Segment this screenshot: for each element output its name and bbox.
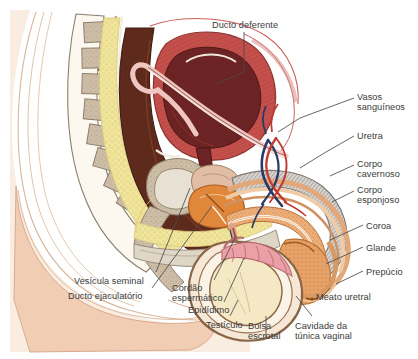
label-epididimo: Epidídimo [188,305,229,315]
label-vesicula-seminal: Vesícula seminal [74,276,144,286]
label-corpo-esponjoso: Corpo esponjoso [357,185,399,206]
label-ducto-ejaculatorio: Ducto ejaculatório [68,291,142,301]
label-uretra: Uretra [357,131,383,141]
label-glande: Glande [366,243,396,253]
label-cordao-espermatico: Cordão espermático [172,283,223,304]
label-prepucio: Prepúcio [366,267,403,277]
label-bolsa-escrotal: Bolsa escrotal [248,321,281,342]
label-meato-uretral: Meato uretral [316,292,371,302]
label-corpo-cavernoso: Corpo cavernoso [357,159,400,180]
label-coroa: Coroa [366,221,391,231]
label-cavidade-tunica-vaginal: Cavidade da túnica vaginal [295,321,352,342]
label-testiculo: Testículo [206,320,243,330]
label-ducto-deferente: Ducto deferente [212,20,278,30]
label-vasos-sanguineos: Vasos sanguíneos [357,92,405,113]
anatomy-figure: Ducto deferente Vasos sanguíneos Uretra … [0,0,418,359]
